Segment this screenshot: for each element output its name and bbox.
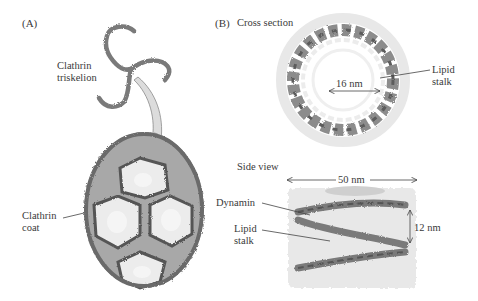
lipid-stalk-label-line1: Lipid [432,64,455,76]
inner-diameter-label: 16 nm [336,78,363,90]
figure-graphics [0,0,478,301]
panel-a-tag: (A) [22,17,37,29]
clathrin-triskelion [99,27,169,107]
triskelion-label-line1: Clathrin [57,60,91,72]
coat-label-line2: coat [22,222,40,234]
triskelion-label-line2: triskelion [57,72,97,84]
side-view-title: Side view [237,161,279,173]
coat-leader-line [63,213,84,218]
side-lipid-label-line1: Lipid [234,223,257,235]
dynamin-label: Dynamin [216,197,255,209]
lipid-stalk-label-line2: stalk [432,76,452,88]
clathrin-coat-cage [84,132,204,288]
length-label: 50 nm [338,174,365,186]
cross-section-title: Cross section [237,17,293,29]
side-lipid-label-line2: stalk [234,235,254,247]
coat-label-line1: Clathrin [22,210,56,222]
panel-b-tag: (B) [215,17,230,29]
height-label: 12 nm [414,222,441,234]
